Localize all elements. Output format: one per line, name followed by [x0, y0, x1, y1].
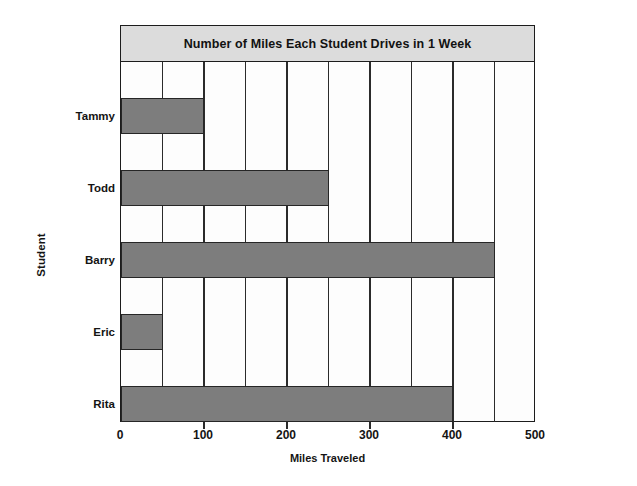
y-axis-tick-label: Barry — [85, 242, 115, 278]
x-axis-tick-label: 100 — [193, 428, 213, 442]
x-axis-title-text: Miles Traveled — [290, 452, 365, 464]
y-axis-tick-label: Eric — [93, 314, 115, 350]
chart-title-text: Number of Miles Each Student Drives in 1… — [184, 37, 472, 51]
x-axis-tick-label: 200 — [276, 428, 296, 442]
x-axis-tick-labels: 0100200300400500 — [120, 428, 535, 446]
x-axis-tick-label: 0 — [117, 428, 124, 442]
bar — [121, 98, 204, 134]
y-axis-title: Student — [30, 200, 52, 310]
y-axis-tick-label: Todd — [88, 170, 115, 206]
bar — [121, 314, 163, 350]
plot-area — [120, 62, 535, 422]
x-axis-tick-label: 500 — [525, 428, 545, 442]
x-axis-tick-label: 400 — [442, 428, 462, 442]
bar — [121, 242, 495, 278]
y-axis-tick-labels: TammyToddBarryEricRita — [55, 62, 115, 422]
x-axis-title: Miles Traveled — [120, 452, 535, 464]
bar — [121, 170, 329, 206]
y-axis-tick-label: Tammy — [76, 98, 115, 134]
bar — [121, 386, 453, 422]
bar-chart: Student TammyToddBarryEricRita Number of… — [0, 0, 637, 486]
x-axis-tick-label: 300 — [359, 428, 379, 442]
y-axis-title-text: Student — [35, 233, 47, 277]
chart-title-banner: Number of Miles Each Student Drives in 1… — [120, 25, 535, 62]
y-axis-tick-label: Rita — [93, 386, 115, 422]
